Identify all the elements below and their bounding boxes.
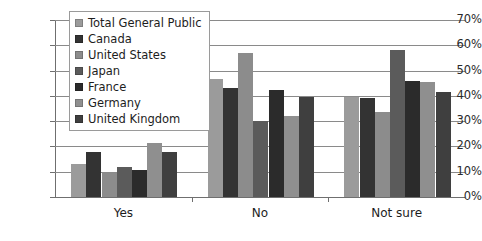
bar xyxy=(420,82,435,197)
bar xyxy=(299,97,314,197)
bar xyxy=(162,152,177,198)
bar xyxy=(223,88,238,197)
bar-group xyxy=(208,20,314,197)
bar xyxy=(117,167,132,197)
bar xyxy=(405,81,420,197)
y-tick-mark xyxy=(50,197,55,198)
bar xyxy=(238,53,253,197)
bar xyxy=(71,164,86,197)
bar xyxy=(208,79,223,197)
legend-swatch-icon xyxy=(75,99,83,107)
bar xyxy=(390,50,405,197)
bar xyxy=(375,112,390,197)
legend-label: France xyxy=(88,81,126,93)
legend-label: Germany xyxy=(88,97,141,109)
bar-group xyxy=(344,20,450,197)
legend-label: United States xyxy=(88,49,166,61)
legend-label: Total General Public xyxy=(88,17,202,29)
chart-legend: Total General PublicCanadaUnited StatesJ… xyxy=(69,11,210,131)
legend-item[interactable]: United States xyxy=(75,47,202,63)
legend-item[interactable]: Canada xyxy=(75,31,202,47)
x-axis-category-label: No xyxy=(192,206,329,220)
legend-swatch-icon xyxy=(75,35,83,43)
bar xyxy=(147,143,162,197)
legend-item[interactable]: Germany xyxy=(75,95,202,111)
legend-label: Canada xyxy=(88,33,132,45)
legend-swatch-icon xyxy=(75,67,83,75)
legend-item[interactable]: France xyxy=(75,79,202,95)
legend-swatch-icon xyxy=(75,115,83,123)
bar xyxy=(284,116,299,197)
legend-label: Japan xyxy=(88,65,120,77)
bar xyxy=(253,121,268,197)
bar xyxy=(269,90,284,197)
x-axis-line xyxy=(55,197,465,198)
bar xyxy=(86,152,101,198)
bar xyxy=(344,97,359,197)
legend-swatch-icon xyxy=(75,19,83,27)
x-axis-category-label: Yes xyxy=(55,206,192,220)
legend-swatch-icon xyxy=(75,83,83,91)
bar xyxy=(436,92,451,197)
legend-item[interactable]: United Kingdom xyxy=(75,111,202,127)
bar-chart: 0%10%20%30%40%50%60%70% YesNoNot sure To… xyxy=(0,0,482,241)
bar xyxy=(360,98,375,197)
bar xyxy=(102,173,117,197)
x-tick-mark xyxy=(192,197,193,202)
legend-label: United Kingdom xyxy=(88,113,180,125)
bar xyxy=(132,170,147,197)
legend-swatch-icon xyxy=(75,51,83,59)
legend-item[interactable]: Total General Public xyxy=(75,15,202,31)
x-tick-mark xyxy=(328,197,329,202)
x-axis-category-label: Not sure xyxy=(328,206,465,220)
legend-item[interactable]: Japan xyxy=(75,63,202,79)
